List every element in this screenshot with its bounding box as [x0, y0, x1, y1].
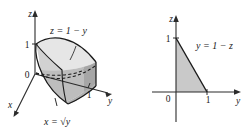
left-z-axis — [32, 10, 38, 74]
right-panel-2d: z y 1 0 1 y = 1 − z — [152, 14, 241, 122]
right-y-one-label: 1 — [206, 95, 211, 105]
right-z-axis-label: z — [168, 14, 173, 24]
figure-canvas: z y x 1 0 1 z = 1 − y x = √y — [0, 0, 242, 133]
left-x-label-leader — [55, 98, 57, 106]
left-x-axis — [14, 74, 36, 117]
right-origin-label: 0 — [166, 94, 171, 104]
right-y-axis-arrowhead — [234, 89, 241, 95]
hypotenuse-equation-label: y = 1 − z — [195, 40, 233, 51]
parabolic-cylinder-equation-label: x = √y — [43, 116, 71, 127]
left-z-axis-label: z — [27, 9, 32, 19]
top-plane-equation-label: z = 1 − y — [49, 25, 87, 36]
left-y-one-label: 1 — [87, 90, 92, 100]
left-x-axis-label: x — [7, 100, 13, 110]
left-z-axis-arrowhead — [32, 10, 38, 17]
left-y-axis-label: y — [107, 96, 113, 106]
left-origin-label: 0 — [25, 70, 30, 80]
left-panel-3d: z y x 1 0 1 z = 1 − y x = √y — [7, 9, 113, 127]
math-figure: z y x 1 0 1 z = 1 − y x = √y — [0, 0, 242, 133]
left-x-axis-arrowhead — [14, 110, 20, 117]
right-z-axis-arrowhead — [173, 15, 179, 22]
left-z-one-label: 1 — [25, 40, 30, 50]
right-z-one-label: 1 — [166, 34, 171, 44]
right-y-axis-label: y — [235, 96, 241, 106]
